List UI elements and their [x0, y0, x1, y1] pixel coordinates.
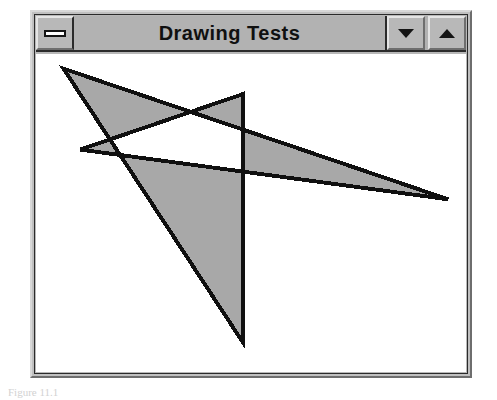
restore-bar-icon	[44, 30, 66, 37]
restore-button[interactable]	[36, 16, 74, 50]
title-bar-text-area: Drawing Tests	[74, 16, 387, 50]
triangle-up-icon	[439, 29, 455, 38]
window-title: Drawing Tests	[159, 22, 301, 45]
figure-caption-remnant: Figure 11.1	[8, 386, 208, 398]
triangle-down-icon	[398, 29, 414, 38]
minimize-button[interactable]	[387, 16, 425, 50]
self-intersecting-polygon	[63, 69, 448, 343]
maximize-button[interactable]	[428, 16, 466, 50]
drawing-client-area[interactable]	[36, 54, 466, 372]
application-window[interactable]: Drawing Tests	[30, 10, 472, 378]
title-bar[interactable]: Drawing Tests	[36, 16, 466, 52]
drawing-canvas	[36, 54, 466, 372]
window-inner-frame: Drawing Tests	[34, 14, 468, 374]
